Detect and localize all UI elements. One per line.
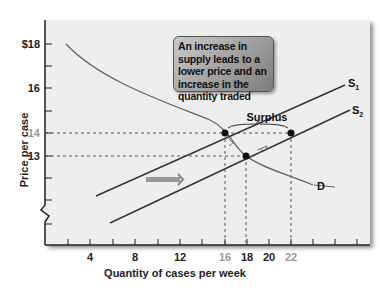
y-tick-18: $18 [22, 38, 40, 50]
d-label: D [317, 180, 325, 192]
x-tick-16: 16 [219, 251, 231, 263]
y-axis-label: Price per case [18, 113, 30, 188]
surplus-label: Surplus [247, 111, 288, 123]
x-tick-4: 4 [87, 251, 94, 263]
x-tick-12: 12 [174, 251, 186, 263]
x-axis-label: Quantity of cases per week [104, 267, 247, 279]
point-new-equilibrium [243, 153, 250, 160]
y-tick-16: 16 [28, 82, 40, 94]
x-tick-18: 18 [241, 251, 253, 263]
x-tick-22: 22 [285, 251, 297, 263]
point-surplus-end [288, 130, 295, 137]
x-tick-20: 20 [263, 251, 275, 263]
callout-box: An increase in supply leads to a lower p… [173, 36, 274, 92]
x-tick-8: 8 [132, 251, 138, 263]
point-old-equilibrium [222, 130, 229, 137]
